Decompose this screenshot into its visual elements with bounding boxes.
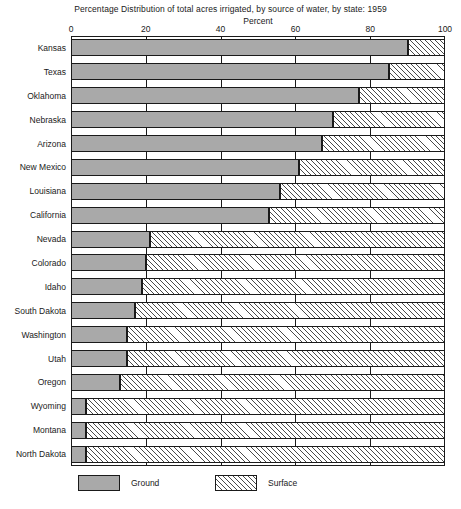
y-category-label: Oklahoma (27, 91, 66, 101)
bar-row (71, 159, 445, 176)
bar-row (71, 111, 445, 128)
x-tick-label: 80 (365, 24, 374, 34)
bar-row (71, 207, 445, 224)
bar-row (71, 446, 445, 463)
chart-container: Percentage Distribution of total acres i… (0, 0, 461, 509)
bar-segment-surface (120, 374, 445, 391)
y-category-label: North Dakota (16, 449, 66, 459)
y-category-label: Idaho (45, 282, 66, 292)
bar-segment-surface (127, 326, 445, 343)
x-axis-label: Percent (71, 16, 445, 26)
y-axis-category-labels: KansasTexasOklahomaNebraskaArizonaNew Me… (0, 36, 66, 466)
bar-segment-surface (135, 302, 445, 319)
bar-row (71, 231, 445, 248)
bar-segment-surface (299, 159, 445, 176)
bar-row (71, 422, 445, 439)
bar-segment-surface (86, 398, 445, 415)
bar-segment-surface (127, 350, 445, 367)
bar-segment-surface (408, 39, 445, 56)
bar-segment-ground (71, 135, 322, 152)
bar-row (71, 326, 445, 343)
bar-segment-surface (86, 422, 445, 439)
legend-swatch-surface (215, 475, 257, 491)
x-tick-label: 100 (438, 24, 452, 34)
x-tick-label: 60 (291, 24, 300, 34)
y-category-label: Montana (33, 425, 66, 435)
bar-segment-ground (71, 183, 280, 200)
y-category-label: Washington (21, 330, 66, 340)
y-category-label: Kansas (38, 43, 66, 53)
bar-row (71, 183, 445, 200)
bar-row (71, 350, 445, 367)
legend-swatch-ground (78, 475, 120, 491)
legend-item: Surface (215, 474, 297, 492)
legend-item: Ground (78, 474, 159, 492)
bar-row (71, 254, 445, 271)
bar-segment-ground (71, 278, 142, 295)
legend-label: Ground (131, 478, 159, 488)
x-tick-label: 0 (69, 24, 74, 34)
y-category-label: Utah (48, 354, 66, 364)
bar-segment-surface (86, 446, 445, 463)
bar-segment-surface (269, 207, 445, 224)
bar-segment-surface (142, 278, 445, 295)
bar-row (71, 278, 445, 295)
y-category-label: Louisiana (30, 186, 66, 196)
bar-segment-surface (150, 231, 445, 248)
y-category-label: Nebraska (30, 115, 66, 125)
y-category-label: Wyoming (31, 401, 66, 411)
bar-segment-surface (389, 63, 445, 80)
bar-segment-ground (71, 398, 86, 415)
bar-segment-ground (71, 39, 408, 56)
y-category-label: Colorado (32, 258, 67, 268)
chart-title: Percentage Distribution of total acres i… (0, 4, 461, 14)
plot-area (71, 36, 445, 466)
bar-segment-surface (280, 183, 445, 200)
bar-segment-surface (359, 87, 445, 104)
bar-segment-ground (71, 111, 333, 128)
y-category-label: Nevada (37, 234, 66, 244)
y-category-label: California (30, 210, 66, 220)
x-tick-label: 20 (141, 24, 150, 34)
y-category-label: South Dakota (14, 306, 66, 316)
bar-segment-ground (71, 231, 150, 248)
bar-segment-ground (71, 302, 135, 319)
y-category-label: Oregon (38, 377, 66, 387)
x-tick-label: 40 (216, 24, 225, 34)
bar-segment-ground (71, 87, 359, 104)
bar-row (71, 87, 445, 104)
y-category-label: Texas (44, 67, 66, 77)
bar-row (71, 135, 445, 152)
bar-segment-ground (71, 350, 127, 367)
bar-segment-surface (322, 135, 445, 152)
bar-segment-ground (71, 374, 120, 391)
bar-segment-surface (146, 254, 445, 271)
bar-row (71, 39, 445, 56)
bar-segment-ground (71, 446, 86, 463)
legend-label: Surface (268, 478, 297, 488)
y-category-label: New Mexico (20, 162, 66, 172)
bar-row (71, 302, 445, 319)
bar-row (71, 63, 445, 80)
bar-segment-ground (71, 207, 269, 224)
y-category-label: Arizona (37, 139, 66, 149)
bar-row (71, 398, 445, 415)
bar-row (71, 374, 445, 391)
bar-segment-ground (71, 422, 86, 439)
bar-segment-surface (333, 111, 445, 128)
bar-segment-ground (71, 254, 146, 271)
chart-legend: GroundSurface (0, 474, 461, 500)
bar-segment-ground (71, 63, 389, 80)
bar-segment-ground (71, 326, 127, 343)
bar-segment-ground (71, 159, 299, 176)
